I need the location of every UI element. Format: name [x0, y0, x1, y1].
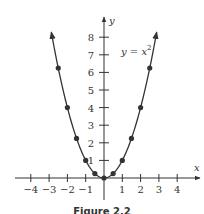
y-tick-label: 6 [88, 67, 94, 78]
data-point [120, 158, 125, 163]
x-tick-label: −4 [23, 184, 38, 195]
figure: −4−3−2−1123412345678xyy = x2 Figure 2.2 [0, 0, 204, 214]
data-point [138, 105, 143, 110]
data-point [92, 171, 97, 176]
axes [15, 17, 200, 200]
x-tick-label: 3 [156, 184, 162, 195]
x-tick-label: 1 [119, 184, 125, 195]
x-tick-label: −2 [60, 184, 75, 195]
y-tick-label: 8 [88, 32, 94, 43]
data-point [74, 136, 79, 141]
equation-exponent: 2 [147, 44, 151, 52]
y-tick-label: 4 [88, 103, 94, 114]
y-tick-label: 1 [88, 155, 94, 166]
x-tick-label: −3 [42, 184, 57, 195]
y-tick-label: 3 [88, 120, 94, 131]
data-point [101, 175, 106, 180]
equation-label: y = x2 [120, 44, 152, 57]
y-tick-label: 5 [88, 85, 94, 96]
x-tick-label: 4 [174, 184, 180, 195]
data-point [65, 105, 70, 110]
x-axis-label: x [194, 162, 200, 173]
y-tick-label: 2 [88, 138, 94, 149]
data-point [56, 65, 61, 70]
y-axis-label: y [108, 15, 115, 26]
x-tick-label: 2 [137, 184, 143, 195]
data-point [129, 136, 134, 141]
data-point [147, 65, 152, 70]
parabola-plot: −4−3−2−1123412345678xyy = x2 [0, 0, 204, 214]
y-tick-label: 7 [88, 50, 94, 61]
x-tick-label: −1 [78, 184, 93, 195]
labels: −4−3−2−1123412345678xyy = x2 [23, 15, 200, 195]
figure-caption: Figure 2.2 [0, 206, 204, 214]
data-point [111, 171, 116, 176]
